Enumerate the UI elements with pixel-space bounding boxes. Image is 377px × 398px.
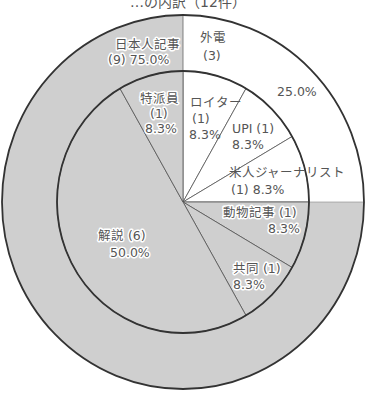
label-us-journalist: 米人ジャーナリスト — [229, 165, 345, 180]
label-reuters-pct: 8.3% — [189, 127, 221, 142]
label-kyodo: 共同 (1) — [233, 261, 281, 276]
label-tokuhain: 特派員 — [140, 91, 179, 106]
label-reuters: ロイター — [190, 95, 242, 110]
label-kaisetsu-pct: 50.0% — [110, 245, 150, 260]
label-tokuhain-count: (1) — [150, 106, 168, 121]
label-upi-pct: 8.3% — [232, 137, 264, 152]
label-gaiden: 外電 — [200, 30, 226, 45]
label-animal-kiji-pct: 8.3% — [268, 221, 300, 236]
label-kyodo-pct: 8.3% — [233, 277, 265, 292]
label-reuters-count: (1) — [192, 111, 210, 126]
label-us-journalist-pct: (1) 8.3% — [231, 182, 285, 197]
label-tokuhain-pct: 8.3% — [145, 121, 177, 136]
chart-title: …の内訳（12件） — [130, 0, 246, 10]
label-nihonjin-kiji: 日本人記事 — [115, 37, 180, 52]
label-gaiden-count: (3) — [203, 48, 221, 63]
label-nihonjin-kiji-value: (9) 75.0% — [108, 52, 170, 67]
label-animal-kiji: 動物記事 (1) — [223, 205, 297, 220]
label-gaiden-pct: 25.0% — [277, 84, 317, 99]
label-upi: UPI (1) — [232, 121, 274, 136]
nested-pie-chart: …の内訳（12件） 日本人記事 (9) 75.0% 外電 (3) 25.0% 特… — [0, 0, 377, 398]
label-kaisetsu: 解説 (6) — [98, 228, 146, 243]
